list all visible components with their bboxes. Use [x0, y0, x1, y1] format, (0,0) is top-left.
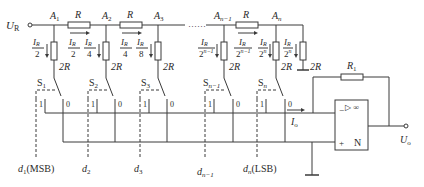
reference-input: UR — [6, 19, 32, 33]
svg-text:2R: 2R — [111, 61, 122, 72]
svg-text:2n−1: 2n−1 — [199, 48, 214, 59]
svg-text:IR: IR — [259, 37, 267, 47]
svg-text:0: 0 — [236, 100, 240, 109]
switch-sn-1[interactable]: Sn−1 1 0 — [203, 77, 240, 142]
output-current: Io — [287, 108, 305, 129]
svg-text:IR: IR — [84, 37, 92, 47]
opamp-noninverting-sign: + — [339, 138, 344, 148]
svg-text:2: 2 — [71, 49, 76, 59]
switch-s3[interactable]: S3 1 0 — [140, 77, 174, 142]
svg-text:IR: IR — [68, 37, 76, 47]
svg-text:IR: IR — [120, 37, 128, 47]
svg-text:2n: 2n — [259, 48, 267, 59]
svg-text:2R: 2R — [229, 61, 240, 72]
svg-text:0: 0 — [118, 100, 122, 109]
switch-s1[interactable]: S1 1 0 — [36, 77, 70, 142]
series-current-arrows — [70, 31, 258, 35]
input-d2[interactable]: d2 — [82, 163, 91, 176]
opamp-inverting-sign: − — [339, 105, 344, 115]
svg-text:2: 2 — [35, 49, 40, 59]
shunt-resistor-n-1 — [221, 42, 227, 60]
svg-text:A3: A3 — [153, 10, 164, 23]
output-terminal — [404, 124, 408, 128]
svg-text:An: An — [271, 10, 282, 23]
svg-text:Sn−1: Sn−1 — [203, 77, 220, 90]
svg-text:4: 4 — [87, 49, 92, 59]
output: Uo — [368, 124, 411, 147]
svg-text:2n: 2n — [284, 48, 292, 59]
series-r-label-2: R — [126, 9, 133, 20]
series-resistor-n — [236, 22, 258, 28]
opamp: − ▷ ∞ + N — [335, 100, 368, 150]
switch-sn[interactable]: Sn 1 0 — [257, 77, 292, 142]
svg-text:IR: IR — [200, 37, 208, 47]
switch-s2[interactable]: S2 1 0 — [88, 77, 122, 142]
svg-text:IR: IR — [238, 37, 246, 47]
digital-inputs: d1(MSB) d2 d3 dn−1 dn(LSB) — [18, 99, 277, 179]
shunt-resistor-1 — [51, 42, 57, 60]
svg-text:0: 0 — [66, 100, 70, 109]
shunt-resistor-2 — [103, 42, 109, 60]
svg-text:2R: 2R — [281, 61, 292, 72]
svg-text:2R: 2R — [163, 61, 174, 72]
svg-text:A1: A1 — [49, 10, 60, 23]
r2r-dac-circuit: UR …… R R R A1 A2 A3 An−1 An — [0, 0, 424, 187]
svg-text:1: 1 — [260, 100, 264, 109]
svg-text:IR: IR — [32, 37, 40, 47]
svg-text:An−1: An−1 — [213, 10, 232, 23]
series-resistor-1 — [68, 22, 90, 28]
svg-text:IR: IR — [136, 37, 144, 47]
series-resistor-2 — [120, 22, 142, 28]
svg-text:S1: S1 — [37, 77, 47, 90]
feedback-resistor — [341, 74, 363, 80]
input-d1[interactable]: d1(MSB) — [18, 163, 54, 176]
switches: S1 1 0 S2 1 0 S3 1 0 Sn−1 — [36, 77, 292, 142]
ellipsis: …… — [188, 19, 206, 29]
svg-text:2n−1: 2n−1 — [236, 48, 251, 59]
svg-text:2R: 2R — [310, 61, 321, 72]
input-dn-1[interactable]: dn−1 — [197, 166, 214, 179]
svg-text:IR: IR — [283, 37, 291, 47]
svg-text:Uo: Uo — [400, 134, 411, 147]
svg-text:1: 1 — [208, 100, 212, 109]
svg-text:A2: A2 — [101, 10, 112, 23]
svg-text:0: 0 — [288, 100, 292, 109]
shunt-resistor-3 — [155, 42, 161, 60]
opamp-symbol: ▷ ∞ — [345, 103, 359, 112]
terminating-resistor — [300, 42, 306, 60]
svg-text:UR: UR — [6, 19, 20, 33]
svg-text:Sn: Sn — [258, 77, 268, 90]
svg-text:1: 1 — [91, 100, 95, 109]
input-d3[interactable]: d3 — [134, 163, 143, 176]
shunt-labels: 2R 2R 2R 2R 2R 2R — [59, 61, 321, 72]
svg-text:S3: S3 — [141, 77, 151, 90]
svg-text:Io: Io — [290, 116, 298, 129]
svg-text:S2: S2 — [89, 77, 99, 90]
svg-text:8: 8 — [139, 49, 144, 59]
opamp-label: N — [354, 137, 361, 148]
shunt-resistor-n — [273, 42, 279, 60]
reference-terminal — [28, 23, 32, 27]
svg-text:4: 4 — [123, 49, 128, 59]
top-rail: …… — [32, 19, 303, 29]
series-r-label-1: R — [74, 9, 81, 20]
series-r-label-n: R — [242, 9, 249, 20]
svg-text:0: 0 — [170, 100, 174, 109]
input-dn[interactable]: dn(LSB) — [243, 163, 277, 176]
svg-text:1: 1 — [39, 100, 43, 109]
svg-text:2R: 2R — [59, 61, 70, 72]
svg-text:R1: R1 — [346, 60, 357, 73]
svg-text:1: 1 — [143, 100, 147, 109]
